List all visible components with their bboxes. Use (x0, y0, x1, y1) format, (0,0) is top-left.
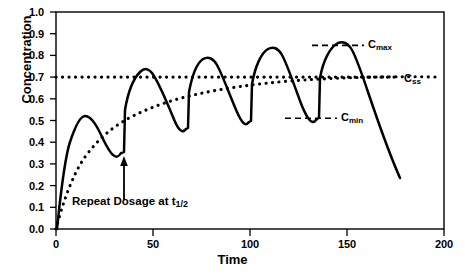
x-tick-label: 100 (241, 238, 259, 250)
cmax-annotation: Cmax (368, 38, 392, 50)
pharmacokinetics-chart: 1.0 0.9 0.8 0.7 0.6 0.5 0.4 0.3 0.2 0.1 … (0, 0, 465, 275)
css-annotation: Css (404, 72, 421, 84)
repeat-dosage-arrow (120, 156, 128, 200)
x-tick-label: 200 (435, 238, 453, 250)
y-tick-label: 0.2 (2, 180, 44, 192)
css-text: C (404, 72, 412, 84)
x-tick-label: 50 (147, 238, 159, 250)
y-axis-ticks (50, 12, 56, 229)
y-tick-label: 0.4 (2, 136, 44, 148)
cmin-text: C (341, 111, 349, 123)
cmin-annotation: Cmin (341, 111, 363, 123)
cmax-subscript: max (376, 43, 392, 52)
x-tick-label: 0 (53, 238, 59, 250)
css-subscript: ss (412, 77, 421, 86)
y-axis-label: Concentration (19, 0, 34, 130)
repeat-dosage-text: Repeat Dosage at t (72, 195, 176, 207)
repeat-dosage-subscript: 1/2 (176, 199, 189, 209)
repeat-dosage-annotation: Repeat Dosage at t1/2 (72, 195, 188, 207)
cmin-subscript: min (349, 116, 363, 125)
plot-canvas (0, 0, 465, 275)
y-tick-label: 0.1 (2, 201, 44, 213)
x-axis-ticks (56, 229, 444, 236)
x-tick-label: 150 (338, 238, 356, 250)
y-tick-label: 0.0 (2, 223, 44, 235)
x-axis-label: Time (0, 252, 465, 267)
cmax-text: C (368, 38, 376, 50)
y-tick-label: 0.3 (2, 158, 44, 170)
